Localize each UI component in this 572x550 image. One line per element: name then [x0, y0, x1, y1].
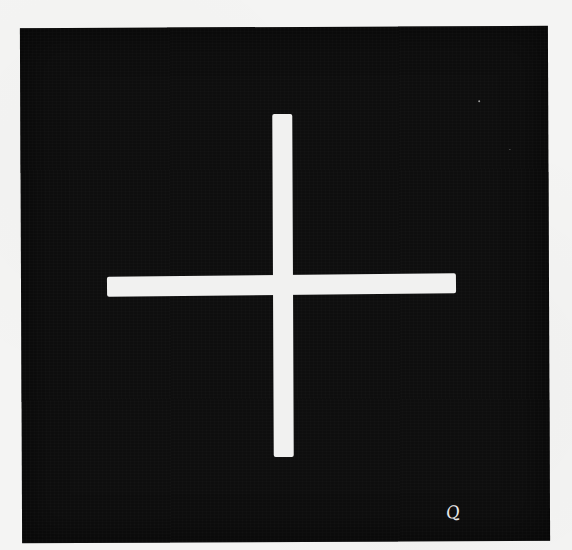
cross-horizontal-bar [107, 273, 456, 297]
dust-speck [478, 100, 480, 102]
black-square: Q [20, 26, 550, 543]
dust-speck [509, 149, 510, 150]
